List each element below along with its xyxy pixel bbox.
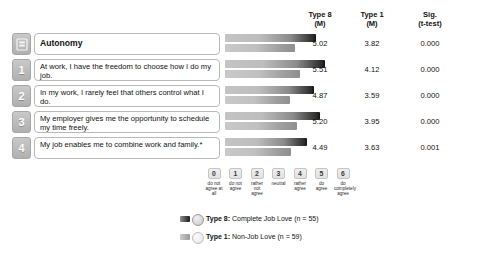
bar-type1 bbox=[225, 70, 300, 78]
value-sig: 0.000 bbox=[404, 39, 456, 49]
item-label: In my work, I rarely feel that others co… bbox=[34, 85, 220, 107]
response-scale: 0do not agree at all1do not agree2rather… bbox=[205, 168, 365, 206]
value-type1: 4.12 bbox=[350, 65, 394, 75]
value-type8: 5.20 bbox=[297, 117, 343, 127]
scale-tick-caption: do not agree at all bbox=[205, 181, 223, 197]
legend-type-icon bbox=[192, 232, 204, 244]
value-type1: 3.95 bbox=[350, 117, 394, 127]
scale-tick: 0do not agree at all bbox=[205, 168, 223, 197]
scale-tick-caption: neutral bbox=[270, 181, 288, 186]
scale-tick-value: 1 bbox=[229, 168, 242, 179]
scale-tick: 6do completely agree bbox=[334, 168, 352, 197]
value-type1: 3.63 bbox=[350, 143, 394, 153]
column-header-type1: Type 1 (M) bbox=[350, 10, 394, 28]
scale-tick-caption: do not agree bbox=[227, 181, 245, 191]
legend-type-icon bbox=[192, 214, 204, 226]
bar-type1 bbox=[225, 122, 297, 130]
item-number-badge: 3 bbox=[12, 111, 31, 133]
bar-type1 bbox=[225, 96, 290, 104]
item-label: My employer gives me the opportunity to … bbox=[34, 111, 220, 133]
column-header-type8-line1: Type 8 bbox=[308, 10, 331, 19]
construct-glyph-icon bbox=[16, 38, 28, 51]
column-header-type1-line2: (M) bbox=[350, 19, 394, 28]
item-number-badge: 4 bbox=[12, 137, 31, 159]
value-type8: 5.51 bbox=[297, 65, 343, 75]
column-header-sig-line2: (t-test) bbox=[404, 19, 456, 28]
value-type8: 5.02 bbox=[297, 39, 343, 49]
scale-tick-value: 4 bbox=[294, 168, 307, 179]
legend-label: Type 1: Non-Job Love (n = 59) bbox=[206, 233, 302, 240]
construct-label: Autonomy bbox=[34, 33, 220, 55]
column-header-type1-line1: Type 1 bbox=[360, 10, 383, 19]
scale-tick-value: 3 bbox=[272, 168, 285, 179]
value-sig: 0.000 bbox=[404, 65, 456, 75]
scale-tick: 4rather agree bbox=[291, 168, 309, 191]
scale-tick-value: 5 bbox=[315, 168, 328, 179]
scale-tick-value: 0 bbox=[208, 168, 221, 179]
value-sig: 0.000 bbox=[404, 91, 456, 101]
scale-tick-value: 2 bbox=[251, 168, 264, 179]
scale-tick: 2rather not agree bbox=[248, 168, 266, 197]
scale-tick: 1do not agree bbox=[227, 168, 245, 191]
value-type8: 4.87 bbox=[297, 91, 343, 101]
chart-figure: Type 8 (M) Type 1 (M) Sig. (t-test) Auto… bbox=[0, 0, 491, 257]
legend-label: Type 8: Complete Job Love (n = 55) bbox=[206, 215, 319, 222]
column-header-type8: Type 8 (M) bbox=[297, 10, 343, 28]
item-label: At work, I have the freedom to choose ho… bbox=[34, 59, 220, 81]
legend-swatch-t8 bbox=[180, 216, 190, 222]
scale-tick-value: 6 bbox=[337, 168, 350, 179]
item-number-badge: 2 bbox=[12, 85, 31, 107]
value-sig: 0.000 bbox=[404, 117, 456, 127]
legend-swatch-t1 bbox=[180, 234, 190, 240]
item-label: My job enables me to combine work and fa… bbox=[34, 137, 220, 159]
bar-type1 bbox=[225, 148, 291, 156]
value-type1: 3.82 bbox=[350, 39, 394, 49]
value-type8: 4.49 bbox=[297, 143, 343, 153]
scale-tick-caption: rather not agree bbox=[248, 181, 266, 197]
scale-tick: 5do agree bbox=[313, 168, 331, 191]
column-header-sig-line1: Sig. bbox=[423, 10, 437, 19]
bar-type8 bbox=[225, 138, 307, 146]
value-sig: 0.001 bbox=[404, 143, 456, 153]
scale-tick-caption: rather agree bbox=[291, 181, 309, 191]
scale-tick-caption: do completely agree bbox=[334, 181, 352, 197]
value-type1: 3.59 bbox=[350, 91, 394, 101]
bar-type1 bbox=[225, 44, 295, 52]
scale-tick: 3neutral bbox=[270, 168, 288, 186]
construct-icon bbox=[12, 33, 31, 55]
column-header-type8-line2: (M) bbox=[297, 19, 343, 28]
column-header-sig: Sig. (t-test) bbox=[404, 10, 456, 28]
item-number-badge: 1 bbox=[12, 59, 31, 81]
scale-tick-caption: do agree bbox=[313, 181, 331, 191]
